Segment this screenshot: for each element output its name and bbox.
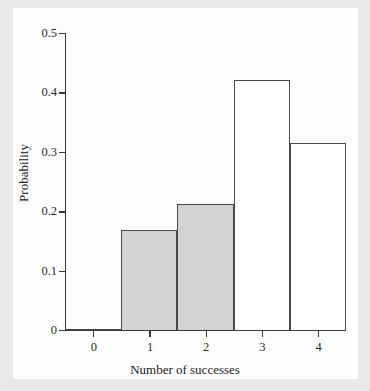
y-tick-label-0.2: 0.2 xyxy=(41,205,57,218)
bar-category-1[interactable] xyxy=(121,230,177,331)
x-tick-label-3: 3 xyxy=(247,341,277,354)
y-tick-mark-0.4 xyxy=(59,92,65,93)
y-tick-label-0.1: 0.1 xyxy=(41,265,57,278)
x-tick-mark-2 xyxy=(206,331,207,337)
y-tick-mark-0.5 xyxy=(59,33,65,34)
y-tick-label-0.5: 0.5 xyxy=(41,27,57,40)
x-tick-mark-3 xyxy=(262,331,263,337)
y-axis-title: Probability xyxy=(16,113,32,233)
y-axis-line xyxy=(65,33,66,331)
bar-chart: 0 0.1 0.2 0.3 0.4 0.5 0 1 2 3 4 Number o… xyxy=(0,0,370,391)
x-tick-label-0: 0 xyxy=(79,341,109,354)
x-axis-title: Number of successes xyxy=(0,362,370,378)
x-tick-mark-1 xyxy=(149,331,150,337)
x-tick-label-4: 4 xyxy=(304,341,334,354)
x-tick-mark-0 xyxy=(93,331,94,337)
y-tick-label-0.4: 0.4 xyxy=(41,86,57,99)
x-tick-label-2: 2 xyxy=(191,341,221,354)
bar-category-2[interactable] xyxy=(177,204,233,331)
x-tick-mark-4 xyxy=(318,331,319,337)
y-tick-mark-0.1 xyxy=(59,271,65,272)
bar-category-4[interactable] xyxy=(290,143,346,331)
figure-page: 0 0.1 0.2 0.3 0.4 0.5 0 1 2 3 4 Number o… xyxy=(0,0,370,391)
y-tick-mark-0.2 xyxy=(59,211,65,212)
bar-category-3[interactable] xyxy=(234,80,290,331)
y-tick-label-0.3: 0.3 xyxy=(41,146,57,159)
y-tick-label-0: 0 xyxy=(51,324,57,337)
y-tick-mark-0.3 xyxy=(59,152,65,153)
x-tick-label-1: 1 xyxy=(135,341,165,354)
y-tick-mark-0 xyxy=(59,330,65,331)
